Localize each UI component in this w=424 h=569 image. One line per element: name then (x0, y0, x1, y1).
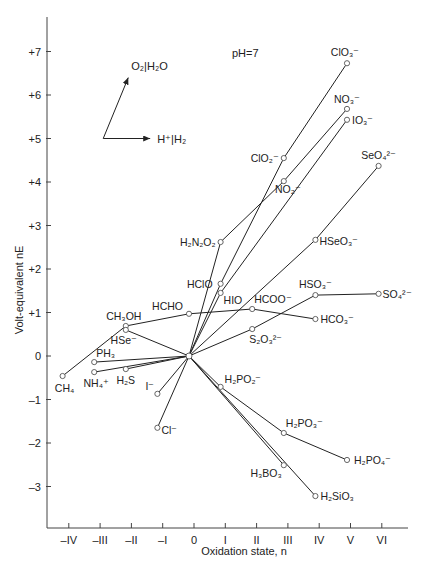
data-point (250, 306, 255, 311)
data-point (376, 291, 381, 296)
data-point (313, 237, 318, 242)
data-point (376, 163, 381, 168)
data-point (218, 290, 223, 295)
point-label: IO₃⁻ (352, 114, 373, 126)
y-tick-label: –2 (29, 437, 41, 449)
point-label: NO₃⁻ (334, 93, 360, 105)
data-point (92, 369, 97, 374)
point-labels: ClO₃⁻NO₃⁻IO₃⁻ClO₂⁻NO₂⁻SeO₄²⁻H₂N₂O₂HSeO₃⁻… (55, 46, 412, 502)
data-point (155, 391, 160, 396)
data-point (281, 430, 286, 435)
point-label: H₂S (116, 374, 135, 386)
data-point (313, 493, 318, 498)
y-tick-label: +1 (28, 307, 41, 319)
x-tick-label: IV (314, 534, 325, 546)
series-phosphorus (94, 356, 347, 460)
point-label: H₂PO₄⁻ (354, 454, 391, 466)
y-tick-label: –1 (29, 394, 41, 406)
x-tick-label: VI (377, 534, 387, 546)
data-point (123, 327, 128, 332)
y-tick-label: +6 (28, 89, 41, 101)
y-tick-label: +5 (28, 133, 41, 145)
y-tick-label: +3 (28, 220, 41, 232)
point-label: HCO₃⁻ (320, 313, 354, 325)
point-label: SeO₄²⁻ (361, 149, 396, 161)
point-label: HSeO₃⁻ (319, 235, 358, 247)
data-point (186, 353, 192, 359)
data-point (155, 425, 160, 430)
point-label: ClO₃⁻ (331, 46, 359, 58)
x-tick-label: –II (125, 534, 137, 546)
point-label: CH₄ (55, 382, 74, 394)
point-label: Cl⁻ (161, 424, 177, 436)
point-label: SO₄²⁻ (383, 288, 412, 300)
data-point (186, 311, 191, 316)
data-point (344, 117, 349, 122)
point-label: ClO₂⁻ (251, 152, 279, 164)
frost-diagram: +7+6+5+4+3+2+10–1–2–3–IV–III–II–I0IIIIII… (0, 0, 424, 569)
point-label: H₂N₂O₂ (180, 236, 216, 248)
data-point (281, 155, 286, 160)
x-tick-label: V (347, 534, 355, 546)
y-tick-label: –3 (29, 481, 41, 493)
data-point (92, 359, 97, 364)
y-tick-label: +7 (28, 46, 41, 58)
reference-arrows: O₂|H₂OH⁺|H₂ (103, 60, 186, 145)
reference-arrow-label: O₂|H₂O (131, 60, 168, 72)
data-point (218, 281, 223, 286)
data-point (344, 457, 349, 462)
o2-h2o-arrow (103, 78, 128, 139)
point-label: H₂PO₂⁻ (225, 373, 262, 385)
y-axis-label: Volt-equivalent nE (13, 246, 25, 335)
reference-arrow-label: H⁺|H₂ (157, 133, 186, 145)
point-label: HIO (224, 294, 243, 306)
data-point (218, 384, 223, 389)
data-point (313, 293, 318, 298)
point-label: I⁻ (145, 380, 154, 392)
point-label: CH₃OH (106, 310, 141, 322)
point-label: HCOO⁻ (254, 293, 292, 305)
y-tick-label: +2 (28, 263, 41, 275)
point-label: H₂SiO₃ (320, 490, 353, 502)
x-tick-label: –III (92, 534, 107, 546)
point-label: H₃BO₃ (250, 467, 281, 479)
data-point (313, 316, 318, 321)
data-point (123, 366, 128, 371)
data-point (344, 106, 349, 111)
x-tick-label: –IV (61, 534, 78, 546)
x-tick-label: –I (158, 534, 167, 546)
x-tick-label: 0 (191, 534, 197, 546)
point-label: HSO₃⁻ (299, 278, 332, 290)
point-label: HClO (187, 278, 213, 290)
ph-annotation: pH=7 (232, 47, 259, 59)
point-label: NH₄⁺ (83, 377, 108, 389)
y-tick-label: +4 (28, 176, 41, 188)
data-point (250, 326, 255, 331)
point-label: NO₂⁻ (275, 183, 301, 195)
data-point (281, 463, 286, 468)
point-label: HCHO (152, 300, 183, 312)
data-point (218, 239, 223, 244)
point-label: S₂O₃²⁻ (249, 333, 282, 345)
data-point (344, 61, 349, 66)
point-label: H₂PO₃⁻ (286, 417, 323, 429)
y-tick-label: 0 (35, 350, 41, 362)
x-axis-label: Oxidation state, n (201, 545, 287, 557)
data-point (60, 373, 65, 378)
point-label: HSe⁻ (111, 334, 137, 346)
point-label: PH₃ (96, 347, 115, 359)
